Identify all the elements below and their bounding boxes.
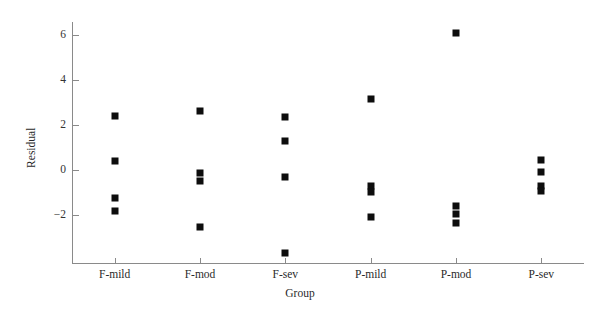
data-point [197,224,204,231]
data-point [197,178,204,185]
data-point [367,189,374,196]
data-point [282,250,289,257]
data-point [538,169,545,176]
data-point [111,195,118,202]
data-point [453,219,460,226]
data-point [367,214,374,221]
data-point [197,108,204,115]
data-point [453,203,460,210]
data-point [538,156,545,163]
data-point [111,158,118,165]
data-point [197,170,204,177]
data-point [538,188,545,195]
data-point [453,210,460,217]
data-point [111,207,118,214]
data-point [282,173,289,180]
data-point [282,114,289,121]
residual-scatter-plot: −20246 F-mildF-modF-sevP-mildP-modP-sev … [0,0,600,310]
data-point [282,137,289,144]
data-point [367,96,374,103]
plot-area [0,0,600,310]
data-point [111,113,118,120]
data-point [453,29,460,36]
